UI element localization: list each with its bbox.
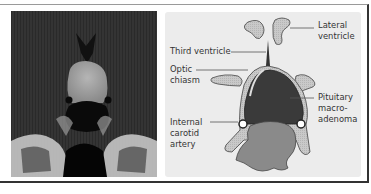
label-optic-chiasm: Optic chiasm (170, 64, 200, 86)
label-lateral-ventricle: Lateral ventricle (318, 20, 355, 42)
label-pituitary-macroadenoma: Pituitary macro- adenoma (318, 92, 357, 125)
label-third-ventricle: Third ventricle (170, 46, 231, 57)
label-internal-carotid-artery: Internal carotid artery (170, 117, 202, 150)
schematic-diagram (0, 0, 371, 194)
